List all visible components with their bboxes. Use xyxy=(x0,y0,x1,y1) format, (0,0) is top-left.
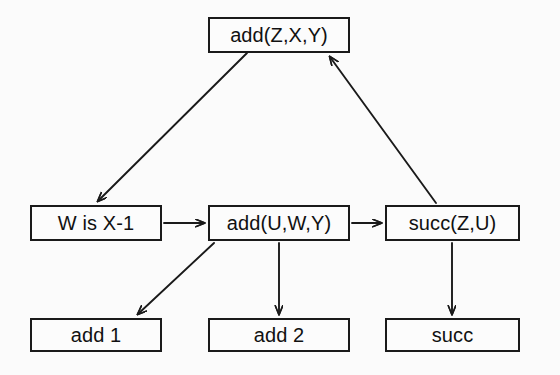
node-label-add_uwy: add(U,W,Y) xyxy=(227,213,331,233)
node-label-succ: succ xyxy=(432,325,474,345)
node-label-goal: add(Z,X,Y) xyxy=(230,25,328,45)
node-add_uwy[interactable]: add(U,W,Y) xyxy=(208,205,350,241)
node-goal[interactable]: add(Z,X,Y) xyxy=(208,17,350,53)
node-succ_zu[interactable]: succ(Z,U) xyxy=(385,205,520,241)
diagram-canvas: add(Z,X,Y)W is X-1add(U,W,Y)succ(Z,U)add… xyxy=(0,0,560,375)
node-succ[interactable]: succ xyxy=(385,318,520,352)
node-label-add_1: add 1 xyxy=(71,325,122,345)
edge-adduwy-to-add1 xyxy=(138,243,214,314)
node-w_is_x_minus_1[interactable]: W is X-1 xyxy=(30,205,162,241)
edge-succ-to-goal xyxy=(330,57,436,203)
node-add_2[interactable]: add 2 xyxy=(208,318,350,352)
node-add_1[interactable]: add 1 xyxy=(30,318,162,352)
edge-group xyxy=(98,53,452,314)
node-label-succ_zu: succ(Z,U) xyxy=(409,213,497,233)
edge-goal-to-w xyxy=(98,53,247,201)
node-label-add_2: add 2 xyxy=(254,325,305,345)
node-label-w_is_x_minus_1: W is X-1 xyxy=(58,213,134,233)
